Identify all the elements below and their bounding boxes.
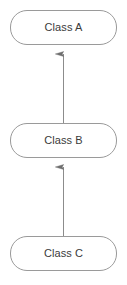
- node-class-b-label: Class B: [44, 135, 83, 146]
- node-class-a-label: Class A: [45, 22, 83, 33]
- class-diagram-canvas: Class A Class B Class C: [0, 0, 127, 285]
- node-class-b[interactable]: Class B: [10, 123, 117, 158]
- node-class-c[interactable]: Class C: [10, 236, 117, 271]
- node-class-a[interactable]: Class A: [10, 10, 117, 45]
- node-class-c-label: Class C: [44, 248, 83, 259]
